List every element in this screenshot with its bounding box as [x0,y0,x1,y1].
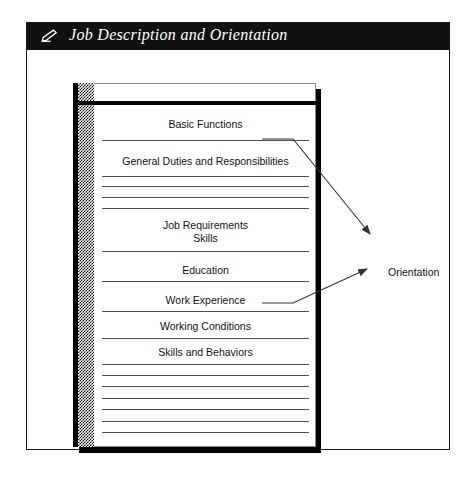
section-divider [102,176,309,177]
window-title: Job Description and Orientation [69,26,288,44]
window-frame: Job Description and Orientation Basic Fu… [26,22,450,450]
blank-rule [102,186,309,187]
blank-rule [102,386,309,387]
section-label: Basic Functions [102,118,309,131]
section-label: Education [102,264,309,277]
section-label: Skills and Behaviors [102,346,309,359]
blank-rule [102,208,309,209]
document-section-working-conditions[interactable]: Working Conditions [102,320,309,333]
section-label: Work Experience [102,294,309,307]
pencil-write-icon [40,29,58,43]
blank-rule [102,375,309,376]
section-label: General Duties and Responsibilities [102,155,309,168]
section-label: Working Conditions [102,320,309,333]
document-section-skills-and-behaviors[interactable]: Skills and Behaviors [102,346,309,359]
orientation-label: Orientation [388,266,439,278]
blank-rule [102,398,309,399]
document-section-general-duties[interactable]: General Duties and Responsibilities [102,155,309,168]
title-bar: Job Description and Orientation [27,23,449,50]
document-section-job-requirements[interactable]: Job Requirements Skills [102,219,309,244]
section-label: Job Requirements [102,219,309,232]
orientation-node[interactable]: Orientation [388,266,439,278]
document-section-work-experience[interactable]: Work Experience [102,294,309,307]
section-divider [102,364,309,365]
section-sublabel: Skills [102,232,309,245]
document-binding-strip [78,83,94,447]
section-divider [102,281,309,282]
section-divider [102,311,309,312]
section-divider [102,251,309,252]
document-section-list: Basic Functions General Duties and Respo… [95,105,316,447]
blank-rule [102,197,309,198]
blank-rule [102,421,309,422]
document-section-basic-functions[interactable]: Basic Functions [102,118,309,131]
document-section-education[interactable]: Education [102,264,309,277]
blank-rule [102,409,309,410]
section-divider [102,338,309,339]
section-divider [102,140,309,141]
blank-rule [102,432,309,433]
